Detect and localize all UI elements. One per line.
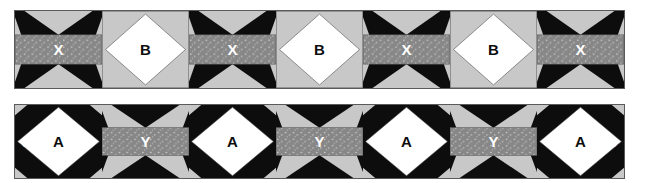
bottom-strip-blocks: AYAYAYA [15,105,624,178]
block-b-2: B [102,11,189,88]
block-a-5: A [363,105,450,178]
block-y-2: Y [102,105,189,178]
block-x-3: X [189,11,276,88]
block-a-3: A [189,105,276,178]
top-strip-blocks: XBXBXBX [15,11,624,88]
block-a-7: A [537,105,624,178]
quilt-border-diagram: XBXBXBX AYAYAYA 8 8 [0,0,651,183]
block-y-4: Y [276,105,363,178]
block-a-1: A [15,105,102,178]
block-b-6: B [450,11,537,88]
top-border-strip: XBXBXBX [14,10,625,89]
block-y-6: Y [450,105,537,178]
block-x-7: X [537,11,624,88]
block-b-4: B [276,11,363,88]
block-x-1: X [15,11,102,88]
block-x-5: X [363,11,450,88]
bottom-border-strip: AYAYAYA 8 8 [14,104,625,179]
